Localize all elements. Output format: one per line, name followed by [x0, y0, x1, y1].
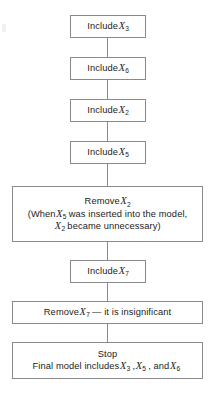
node-line-explanation-1: (WhenX5was inserted into the model, — [28, 208, 188, 220]
node-remove-x2: RemoveX2 (WhenX5was inserted into the mo… — [12, 186, 203, 242]
node-include-x2: IncludeX2 — [70, 99, 146, 122]
connector-2 — [107, 80, 108, 99]
scan-artifact — [2, 24, 6, 32]
subscript: 7 — [86, 311, 90, 318]
node-line: IncludeX5 — [87, 146, 128, 158]
subscript: 2 — [127, 201, 131, 208]
connector-5 — [107, 242, 108, 260]
node-line: IncludeX7 — [87, 265, 128, 277]
variable-x: X7 — [118, 265, 129, 276]
node-line-stop: Stop — [98, 349, 118, 360]
action-label: Include — [87, 63, 118, 73]
subscript: 3 — [125, 25, 129, 32]
connector-3 — [107, 122, 108, 141]
node-line-final-model: Final model includesX3,X5, andX6 — [33, 360, 183, 372]
node-include-x7: IncludeX7 — [70, 260, 146, 283]
subscript: 3 — [126, 365, 130, 372]
subscript: 6 — [125, 67, 129, 74]
subscript: 7 — [125, 270, 129, 277]
action-label: Include — [87, 266, 118, 276]
action-label: Remove — [85, 196, 120, 206]
unnecessary-phrase: became unnecessary) — [67, 221, 160, 231]
action-label: Include — [87, 105, 118, 115]
variable-x: X5 — [135, 360, 148, 371]
subscript: 5 — [142, 365, 146, 372]
node-include-x6: IncludeX6 — [70, 57, 146, 80]
node-line: IncludeX3 — [87, 20, 128, 32]
variable-x: X2 — [118, 104, 129, 115]
node-line: RemoveX7— it is insignificant — [44, 306, 171, 318]
variable-x: X2 — [120, 195, 131, 206]
subscript: 5 — [125, 151, 129, 158]
connector-1 — [107, 38, 108, 57]
inserted-phrase: was inserted into the model, — [69, 209, 188, 219]
connector-7 — [107, 324, 108, 342]
variable-x: X2 — [54, 220, 67, 231]
node-include-x5: IncludeX5 — [70, 141, 146, 164]
node-line: IncludeX2 — [87, 104, 128, 116]
subscript: 2 — [61, 225, 65, 232]
variable-x: X5 — [118, 146, 129, 157]
subscript: 6 — [176, 365, 180, 372]
subscript: 5 — [63, 213, 67, 220]
node-line: IncludeX6 — [87, 62, 128, 74]
variable-x: X5 — [56, 208, 69, 219]
variable-x: X6 — [118, 62, 129, 73]
final-model-prefix: Final model includes — [33, 361, 120, 371]
action-label: Include — [87, 21, 118, 31]
action-label: Remove — [44, 307, 79, 317]
node-stop: Stop Final model includesX3,X5, andX6 — [12, 342, 203, 379]
stop-label: Stop — [98, 349, 118, 359]
subscript: 2 — [125, 109, 129, 116]
and-separator: , and — [148, 361, 169, 371]
flowchart-canvas: IncludeX3 IncludeX6 IncludeX2 IncludeX5 … — [0, 0, 215, 395]
node-remove-x7: RemoveX7— it is insignificant — [12, 301, 203, 324]
variable-x: X6 — [169, 360, 182, 371]
action-label: Include — [87, 147, 118, 157]
variable-x: X7 — [79, 306, 92, 317]
when-prefix: (When — [28, 209, 56, 219]
variable-x: X3 — [119, 360, 132, 371]
connector-4 — [107, 164, 108, 186]
node-line-explanation-2: X2became unnecessary) — [54, 220, 160, 232]
node-include-x3: IncludeX3 — [70, 15, 146, 38]
variable-x: X3 — [118, 20, 129, 31]
node-line-title: RemoveX2 — [85, 195, 131, 207]
connector-6 — [107, 283, 108, 301]
insignificant-phrase: — it is insignificant — [92, 307, 171, 317]
